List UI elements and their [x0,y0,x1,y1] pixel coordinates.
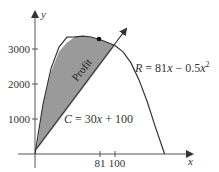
cost-equation: C = 30x + 100 [64,112,133,126]
x-axis-label: x [187,155,193,167]
y-axis-label: y [40,8,46,20]
y-tick-label-1000: 1000 [8,113,31,125]
x-tick-label-100: 100 [109,157,126,169]
revenue-equation: R = 81x − 0.5x2 [134,60,210,75]
x-tick-label-81: 81 [95,157,106,169]
profit-chart: 3000 2000 1000 81 100 y x Profit R = 81x… [0,0,219,172]
y-tick-label-2000: 2000 [8,78,31,90]
y-tick-label-3000: 3000 [8,43,31,55]
max-revenue-point [97,37,102,42]
